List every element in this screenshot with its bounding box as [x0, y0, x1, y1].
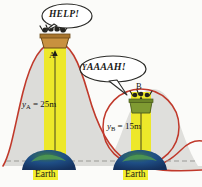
- height-label-a: yA = 25m: [22, 100, 56, 110]
- earth-label-left: Earth: [33, 170, 58, 180]
- yaaaah-main: AAAAH!: [87, 61, 126, 72]
- cart-rim-a: [40, 34, 70, 38]
- height-label-b: yB = 15m: [107, 122, 141, 132]
- speech-bubble-help-text: HELP!: [49, 10, 79, 20]
- cart-body-b: [130, 102, 152, 113]
- speech-bubble-yaaaah-tail: [109, 80, 127, 95]
- point-label-b: B: [136, 82, 142, 91]
- point-label-a: A: [49, 51, 55, 60]
- cart-body-a: [41, 37, 69, 48]
- speech-bubble-yaaaah-text: YAAAAH!: [82, 62, 126, 72]
- rider-head-b3: [145, 93, 150, 98]
- height-value-b: = 15m: [118, 121, 141, 131]
- earth-label-right: Earth: [123, 170, 148, 180]
- physics-figure: HELP! YAAAAH! A B yA = 25m yB = 15m Eart…: [0, 0, 202, 187]
- rider-head-b1: [133, 93, 138, 98]
- cart-rim-b: [129, 99, 153, 103]
- scene-artwork: [0, 0, 202, 187]
- height-subscript-a: A: [26, 103, 31, 110]
- rider-head-b2: [139, 92, 144, 97]
- height-subscript-b: B: [111, 125, 115, 132]
- height-value-a: = 25m: [33, 99, 56, 109]
